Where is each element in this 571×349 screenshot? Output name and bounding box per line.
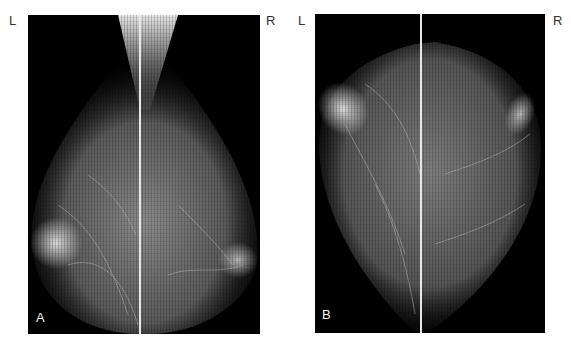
panel-b-left-orientation-label: L [298,14,305,27]
panel-b-center-divider [420,14,422,333]
panel-a-tissue-illustration [28,15,260,334]
panel-a-letter: A [36,311,45,324]
panel-a-left-orientation-label: L [9,14,16,27]
panel-b-image: B [315,14,545,333]
panel-a-center-divider [139,15,141,334]
panel-a-image: A [28,15,260,334]
panel-a-right-orientation-label: R [266,14,275,27]
panel-b-tissue-illustration [315,14,545,333]
panel-b-letter: B [322,308,331,321]
panel-b-right-orientation-label: R [553,14,562,27]
